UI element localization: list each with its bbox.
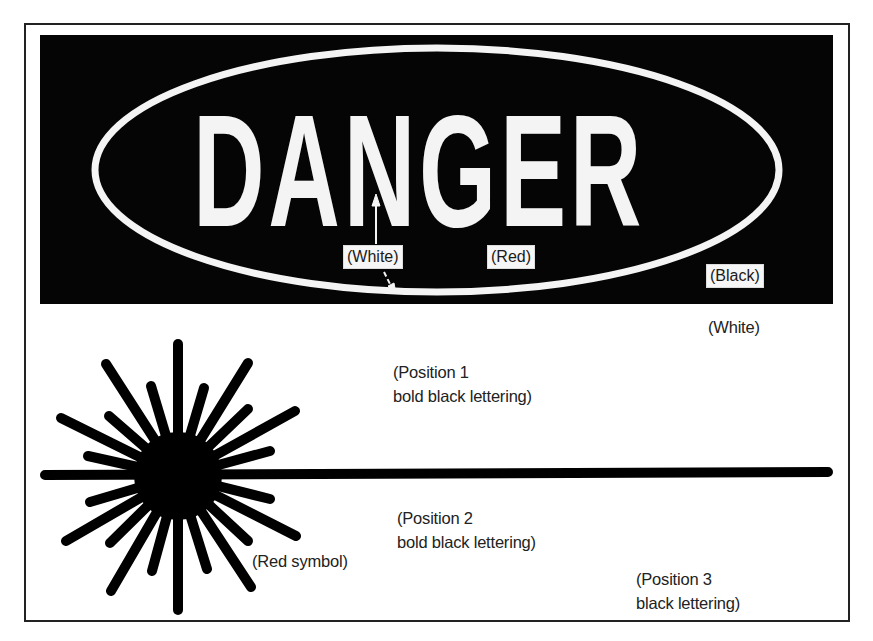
position-2-line-1: (Position 2 <box>397 507 473 530</box>
starburst-core <box>134 432 222 520</box>
position-1-line-1: (Position 1 <box>393 361 469 384</box>
position-2-line-2: bold black lettering) <box>397 531 536 554</box>
position-1-line-2: bold black lettering) <box>393 385 532 408</box>
label-panel-color: (Black) <box>706 264 764 288</box>
symbol-label: (Red symbol) <box>252 550 348 573</box>
signal-word: DANGER <box>193 96 503 246</box>
position-3-line-1: (Position 3 <box>636 568 712 591</box>
label-sign-body-color: (White) <box>708 316 760 339</box>
label-ellipse-color: (Red) <box>487 245 535 269</box>
position-3-line-2: black lettering) <box>636 592 740 615</box>
label-letters-color: (White) <box>343 245 403 269</box>
